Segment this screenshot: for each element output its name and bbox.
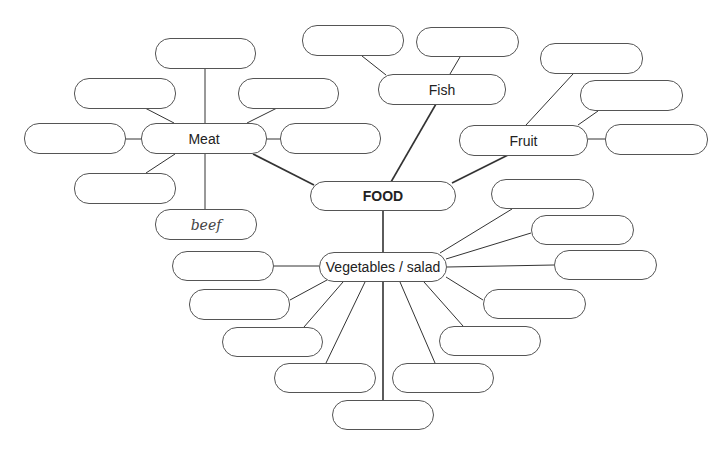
connector-line — [446, 233, 531, 259]
blank-node[interactable] — [554, 250, 657, 280]
blank-node[interactable] — [416, 27, 519, 57]
connector-line — [526, 74, 573, 125]
blank-node[interactable] — [605, 124, 708, 155]
blank-node[interactable]: beef — [155, 209, 257, 240]
blank-node[interactable] — [280, 123, 381, 154]
blank-node[interactable] — [531, 215, 634, 245]
connector-line — [253, 154, 314, 185]
blank-node[interactable] — [392, 363, 494, 393]
blank-node[interactable] — [74, 173, 176, 204]
connector-line — [424, 282, 463, 326]
category-node-meat[interactable]: Meat — [141, 123, 267, 154]
blank-node[interactable] — [274, 363, 376, 393]
connector-line — [146, 154, 175, 173]
blank-node[interactable] — [24, 123, 126, 154]
central-node[interactable]: FOOD — [310, 181, 456, 211]
blank-node[interactable] — [580, 80, 683, 111]
blank-node[interactable] — [540, 43, 643, 74]
connector-line — [145, 108, 174, 123]
blank-node[interactable] — [155, 38, 256, 69]
blank-node[interactable] — [483, 289, 586, 319]
blank-node[interactable] — [491, 179, 594, 209]
category-node-fish[interactable]: Fish — [378, 74, 506, 105]
blank-node[interactable] — [189, 289, 290, 320]
category-node-fruit[interactable]: Fruit — [459, 125, 588, 156]
connector-line — [578, 111, 598, 125]
connector-line — [400, 282, 435, 363]
connector-line — [447, 265, 554, 267]
blank-node[interactable] — [439, 326, 541, 356]
connector-line — [290, 280, 327, 300]
connector-line — [446, 277, 483, 300]
blank-node[interactable] — [74, 78, 176, 109]
blank-node[interactable] — [238, 78, 339, 109]
connector-line — [440, 209, 512, 253]
blank-node[interactable] — [172, 251, 274, 281]
connector-line — [362, 56, 386, 75]
category-node-veg[interactable]: Vegetables / salad — [319, 252, 447, 282]
blank-node[interactable] — [302, 25, 404, 56]
connector-line — [450, 57, 460, 74]
connector-line — [452, 155, 508, 183]
blank-node[interactable] — [332, 400, 434, 430]
blank-node[interactable] — [222, 327, 323, 357]
connector-line — [247, 108, 277, 123]
connector-line — [391, 104, 436, 182]
